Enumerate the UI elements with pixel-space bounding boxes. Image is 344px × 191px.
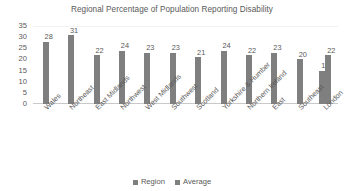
bar-value-label: 20 [294, 51, 312, 58]
y-axis-tick-label: 10 [19, 78, 27, 86]
chart-container: Regional Percentage of Population Report… [0, 0, 344, 191]
bar[interactable] [43, 42, 49, 104]
y-axis-tick-label: 15 [19, 67, 27, 75]
bar-value-label: 23 [167, 44, 185, 51]
x-axis: WalesNortheastEast MidlandsNorthwestWest… [33, 104, 338, 166]
bar-value-label: 22 [322, 47, 340, 54]
bar[interactable] [221, 51, 227, 104]
y-axis-tick-label: 5 [23, 89, 27, 97]
legend-item[interactable]: Region [133, 178, 165, 186]
y-axis-tick-label: 20 [19, 56, 27, 64]
legend-swatch-icon [133, 180, 138, 185]
chart-legend: RegionAverage [0, 178, 344, 186]
bar-value-label: 24 [116, 42, 134, 49]
y-axis-tick-label: 35 [19, 22, 27, 30]
legend-label: Region [141, 178, 165, 186]
bar-value-label: 23 [268, 44, 286, 51]
bar-value-label: 22 [91, 47, 109, 54]
bar-value-label: 23 [141, 44, 159, 51]
y-axis-tick-label: 30 [19, 33, 27, 41]
bar-value-label: 31 [65, 27, 83, 34]
legend-label: Average [183, 178, 211, 186]
bar-value-label: 22 [243, 47, 261, 54]
y-axis-tick-label: 25 [19, 44, 27, 52]
y-axis-tick-label: 0 [23, 100, 27, 108]
bar-value-label: 21 [192, 49, 210, 56]
bar-value-label: 28 [40, 33, 58, 40]
bar[interactable] [297, 59, 303, 104]
bar[interactable] [94, 55, 100, 104]
bar[interactable] [195, 57, 201, 104]
chart-title: Regional Percentage of Population Report… [0, 5, 344, 14]
bar-value-label: 24 [218, 42, 236, 49]
legend-swatch-icon [175, 180, 180, 185]
y-axis: 05101520253035 [0, 26, 30, 104]
legend-item[interactable]: Average [175, 178, 211, 186]
bar[interactable] [144, 53, 150, 104]
bar[interactable] [68, 35, 74, 104]
